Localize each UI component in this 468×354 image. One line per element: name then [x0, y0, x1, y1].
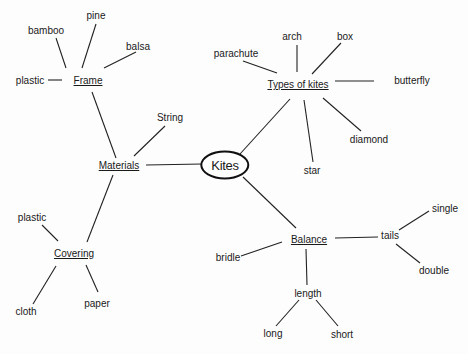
root-node-kites: Kites: [200, 151, 249, 180]
node-balance: Balance: [291, 235, 327, 245]
edge-frame-frame-bamboo: [56, 38, 66, 68]
node-type-diamond: diamond: [350, 135, 388, 145]
edge-covering-cover-cloth: [33, 266, 56, 304]
edge-kites-types: [240, 99, 290, 154]
node-type-parachute: parachute: [214, 49, 258, 59]
edge-balance-bal-bridle: [241, 242, 282, 256]
node-length-long: long: [264, 329, 283, 339]
edge-frame-frame-pine: [82, 24, 96, 68]
node-covering-cloth: cloth: [15, 307, 36, 317]
node-materials: Materials: [99, 161, 140, 171]
node-type-arch: arch: [282, 32, 301, 42]
edge-materials-covering: [87, 175, 113, 242]
node-balance-length: length: [294, 289, 321, 299]
node-covering-paper: paper: [84, 299, 110, 309]
edge-bal-tails-tails-double: [396, 244, 420, 263]
edge-frame-frame-balsa: [104, 52, 136, 68]
edge-bal-tails-tails-single: [399, 211, 429, 230]
edge-materials-string: [134, 126, 165, 156]
node-frame-balsa: balsa: [126, 42, 150, 52]
node-covering-plastic: plastic: [18, 213, 46, 223]
node-tails-double: double: [419, 266, 449, 276]
node-types-of-kites: Types of kites: [267, 80, 328, 90]
edge-types-type-diamond: [323, 98, 361, 131]
edge-kites-materials: [146, 164, 202, 165]
node-string: String: [157, 113, 183, 123]
edge-covering-cover-plastic: [42, 225, 58, 241]
node-balance-tails: tails: [381, 231, 399, 241]
node-type-star: star: [304, 166, 321, 176]
node-frame-plastic: plastic: [16, 76, 44, 86]
edge-kites-balance: [243, 177, 296, 228]
node-frame-pine: pine: [87, 11, 106, 21]
edge-bal-length-len-long: [276, 300, 299, 326]
edge-types-type-parachute: [243, 61, 277, 73]
node-frame: Frame: [74, 76, 103, 86]
edge-types-type-box: [312, 43, 341, 74]
edge-materials-frame: [92, 92, 116, 158]
node-type-box: box: [337, 32, 353, 42]
node-frame-bamboo: bamboo: [28, 26, 64, 36]
node-covering: Covering: [54, 249, 94, 259]
node-length-short: short: [331, 330, 353, 340]
node-type-butterfly: butterfly: [394, 76, 430, 86]
edge-balance-bal-tails: [335, 237, 378, 238]
concept-map-canvas: Kites Materials Types of kites Balance F…: [0, 0, 468, 354]
edge-types-type-star: [304, 100, 313, 162]
node-balance-bridle: bridle: [216, 253, 240, 263]
node-tails-single: single: [432, 204, 458, 214]
edge-bal-length-len-short: [316, 300, 338, 326]
edge-balance-bal-length: [306, 249, 307, 285]
edge-covering-cover-paper: [86, 265, 98, 292]
